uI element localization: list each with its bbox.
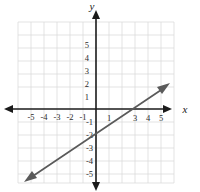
y-axis-arrow-down	[92, 182, 100, 191]
graph-canvas: y x -5 -4 -3 -2 -1 1 3 4 5 5 4 3 2 1 -1 …	[0, 0, 200, 192]
x-axis-arrow-right	[163, 105, 172, 113]
y-tick-label: 5	[85, 40, 89, 50]
y-axis-title: y	[89, 0, 95, 12]
x-tick-label: -3	[53, 112, 60, 122]
x-axis-arrow-left	[4, 105, 13, 113]
x-tick-label: 3	[133, 113, 137, 123]
y-axis	[92, 10, 100, 191]
y-tick-label: -1	[86, 117, 93, 127]
x-tick-label: -5	[27, 112, 34, 122]
x-tick-label: -2	[66, 112, 73, 122]
x-tick-label: 4	[146, 113, 151, 123]
y-tick-label: 4	[85, 53, 90, 63]
y-tick-label: 3	[85, 66, 89, 76]
x-tick-label: 1	[107, 113, 111, 123]
y-tick-label: -5	[86, 169, 93, 179]
x-tick-label: -4	[40, 112, 48, 122]
coordinate-plane-figure: y x -5 -4 -3 -2 -1 1 3 4 5 5 4 3 2 1 -1 …	[0, 0, 200, 192]
x-axis-title: x	[182, 103, 188, 115]
y-tick-label: -3	[86, 143, 93, 153]
line-arrow-lower-left	[24, 171, 37, 182]
y-tick-label: 1	[85, 92, 89, 102]
y-tick-label: 2	[85, 79, 89, 89]
y-tick-label: -4	[86, 156, 94, 166]
x-tick-label: 5	[159, 113, 163, 123]
line-segment	[30, 88, 164, 178]
